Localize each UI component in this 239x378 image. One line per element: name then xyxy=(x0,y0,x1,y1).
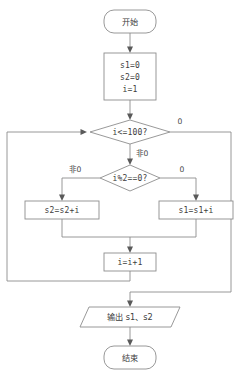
node-end-label: 结束 xyxy=(122,353,138,363)
edge-label-parity-true: 非0 xyxy=(69,164,82,174)
node-even-branch[interactable]: s2=s2+i xyxy=(25,201,99,219)
node-odd-branch-label: s1=s1+i xyxy=(178,206,213,215)
edge-label-parity-false: 0 xyxy=(180,165,185,174)
node-end[interactable]: 结束 xyxy=(104,346,156,369)
edge-label-loop-false: 0 xyxy=(178,117,183,126)
node-increment-label: i=i+1 xyxy=(117,258,142,267)
connector-start-to-init xyxy=(127,33,133,53)
flowchart-canvas: 开始 s1=0 s2=0 i=1 i<=100? i%2==0? s2=s2+i… xyxy=(0,0,239,378)
connector-even-to-merge xyxy=(62,219,130,237)
connector-parity-true-to-even xyxy=(59,178,100,201)
node-start-label: 开始 xyxy=(122,17,138,27)
node-even-branch-label: s2=s2+i xyxy=(44,206,79,215)
node-parity-condition[interactable]: i%2==0? xyxy=(100,165,160,191)
node-init-line1: s1=0 xyxy=(120,61,140,70)
node-parity-condition-label: i%2==0? xyxy=(112,174,147,183)
connector-loop-to-parity xyxy=(127,144,133,165)
node-odd-branch[interactable]: s1=s1+i xyxy=(159,201,233,219)
node-output-label: 输出 s1、s2 xyxy=(107,312,153,322)
node-start[interactable]: 开始 xyxy=(104,10,156,33)
connector-exit-to-output xyxy=(127,292,133,307)
node-increment[interactable]: i=i+1 xyxy=(104,253,156,271)
node-init[interactable]: s1=0 s2=0 i=1 xyxy=(104,53,156,100)
connector-init-to-loop-condition xyxy=(127,100,133,120)
node-loop-condition-label: i<=100? xyxy=(112,128,147,137)
connector-output-to-end xyxy=(127,327,133,346)
connector-odd-to-merge xyxy=(130,219,196,237)
edge-label-loop-true: 非0 xyxy=(136,148,149,158)
connector-merge-to-increment xyxy=(127,237,133,253)
node-output[interactable]: 输出 s1、s2 xyxy=(80,307,180,327)
node-loop-condition[interactable]: i<=100? xyxy=(90,120,170,144)
connector-parity-false-to-odd xyxy=(160,178,199,201)
node-init-line3: i=1 xyxy=(122,85,137,94)
node-init-line2: s2=0 xyxy=(120,73,140,82)
